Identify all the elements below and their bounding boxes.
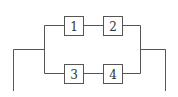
right-lead-wire bbox=[141, 50, 166, 92]
left-lead-wire bbox=[14, 50, 45, 92]
block-4-label: 4 bbox=[109, 68, 117, 82]
block-3-label: 3 bbox=[70, 68, 78, 82]
block-2-label: 2 bbox=[109, 20, 117, 34]
circuit-diagram: 1 2 3 4 bbox=[0, 0, 178, 97]
block-1-label: 1 bbox=[70, 20, 78, 34]
